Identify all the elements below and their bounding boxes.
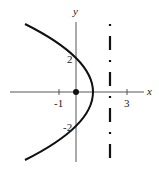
- x-tick-label-neg1: -1: [54, 97, 63, 109]
- x-axis-label: x: [146, 85, 152, 97]
- parabola-diagram: y x -1 3 2 -2: [0, 0, 159, 171]
- y-tick-label-2: 2: [67, 53, 73, 65]
- y-axis-label: y: [72, 5, 78, 17]
- focus-point: [73, 89, 79, 95]
- x-tick-label-3: 3: [124, 97, 130, 109]
- y-tick-label-neg2: -2: [63, 121, 72, 133]
